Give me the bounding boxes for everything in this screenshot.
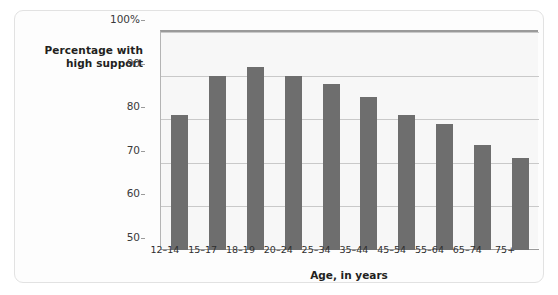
y-tick-label: 60 xyxy=(104,187,140,199)
y-tick-mark xyxy=(141,64,145,65)
bar xyxy=(474,145,491,250)
bar xyxy=(360,97,377,250)
x-tick-label: 20–24 xyxy=(259,244,297,255)
bar xyxy=(398,115,415,250)
bar xyxy=(512,158,529,250)
y-tick-mark xyxy=(141,107,145,108)
x-tick-label: 65–74 xyxy=(448,244,486,255)
bar xyxy=(171,115,188,250)
y-tick-label: 100% xyxy=(96,13,140,25)
chart-panel: Percentage with high support 50607080901… xyxy=(14,10,544,283)
y-tick-label: 90 xyxy=(104,57,140,69)
y-tick-mark xyxy=(141,151,145,152)
x-axis-title: Age, in years xyxy=(160,269,538,281)
x-tick-label: 18–19 xyxy=(222,244,260,255)
y-tick-label: 70 xyxy=(104,144,140,156)
y-tick-mark xyxy=(141,20,145,21)
plot-area xyxy=(160,30,538,248)
gridline xyxy=(161,32,539,33)
y-tick-label: 50 xyxy=(104,231,140,243)
x-tick-label: 55–64 xyxy=(411,244,449,255)
y-axis-title-line-1: Percentage with xyxy=(31,44,143,57)
bar xyxy=(247,67,264,250)
x-tick-label: 15–17 xyxy=(184,244,222,255)
y-tick-mark xyxy=(141,194,145,195)
bar xyxy=(285,76,302,250)
x-tick-label: 35–44 xyxy=(335,244,373,255)
figure: Percentage with high support 50607080901… xyxy=(0,0,558,295)
bar xyxy=(323,84,340,250)
bar xyxy=(209,76,226,250)
y-tick-mark xyxy=(141,238,145,239)
x-tick-label: 12–14 xyxy=(146,244,184,255)
x-tick-label: 45–54 xyxy=(373,244,411,255)
x-tick-label: 25–34 xyxy=(297,244,335,255)
bar xyxy=(436,124,453,250)
x-tick-label: 75+ xyxy=(486,244,524,255)
y-tick-label: 80 xyxy=(104,100,140,112)
